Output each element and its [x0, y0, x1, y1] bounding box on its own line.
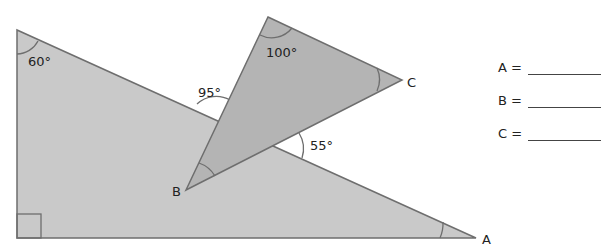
answer-a-blank[interactable] [528, 62, 601, 75]
angle-label-100: 100° [266, 45, 297, 60]
answer-a-row: A = [498, 60, 601, 75]
vertex-label-a: A [482, 232, 491, 247]
answer-b-row: B = [498, 93, 601, 108]
angle-arc-55 [299, 133, 303, 158]
answer-a-label: A = [498, 60, 522, 75]
answer-b-label: B = [498, 93, 522, 108]
answer-c-blank[interactable] [528, 128, 601, 141]
answer-c-row: C = [498, 126, 601, 141]
vertex-label-b: B [172, 184, 181, 199]
angle-label-55: 55° [310, 138, 333, 153]
angle-label-60: 60° [28, 54, 51, 69]
vertex-label-c: C [407, 75, 416, 90]
angle-label-95: 95° [198, 85, 221, 100]
answer-b-blank[interactable] [528, 95, 601, 108]
answer-c-label: C = [498, 126, 522, 141]
